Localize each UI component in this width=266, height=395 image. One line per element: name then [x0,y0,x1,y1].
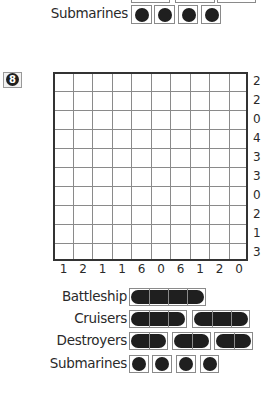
puzzle-grid[interactable] [53,72,248,261]
puzzle-number: 8 [6,73,19,86]
battleship-label: Battleship [62,288,127,304]
prev-submarine-1 [131,5,152,24]
submarine-4 [200,355,219,373]
prev-submarine-3 [178,5,198,24]
row-clue: 2 [253,93,263,107]
destroyer-2 [172,332,211,350]
row-clue: 3 [253,150,263,164]
cruiser-1 [129,310,187,328]
prev-destroyer-1 [131,0,170,3]
row-clue: 0 [253,188,263,202]
row-clue: 2 [253,207,263,221]
cruiser-2 [192,310,250,328]
battleship [129,288,206,306]
col-clue: 1 [191,262,210,276]
destroyer-1 [129,332,168,350]
col-clue: 2 [74,262,93,276]
col-clue: 0 [230,262,249,276]
row-clue: 1 [253,226,263,240]
cruisers-label: Cruisers [74,310,127,326]
submarine-2 [152,355,172,373]
col-clue: 2 [210,262,229,276]
col-clue: 1 [113,262,132,276]
destroyer-3 [214,332,253,350]
destroyers-label: Destroyers [57,332,127,348]
row-clue: 4 [253,131,263,145]
submarine-1 [129,355,149,373]
puzzle-number-badge: 8 [3,72,22,88]
prev-submarine-2 [154,5,175,24]
prev-submarine-4 [201,5,221,24]
row-clue: 3 [253,169,263,183]
submarines-label: Submarines [50,355,127,371]
prev-submarines-label: Submarines [51,5,128,21]
row-clue: 3 [253,245,263,259]
prev-destroyer-3 [217,0,256,3]
col-clue: 0 [152,262,171,276]
prev-destroyer-2 [175,0,215,3]
submarine-3 [176,355,196,373]
col-clue: 1 [93,262,112,276]
row-clue: 0 [253,112,263,126]
col-clue: 6 [132,262,151,276]
row-clue: 2 [253,74,263,88]
col-clue: 6 [171,262,190,276]
col-clue: 1 [54,262,73,276]
